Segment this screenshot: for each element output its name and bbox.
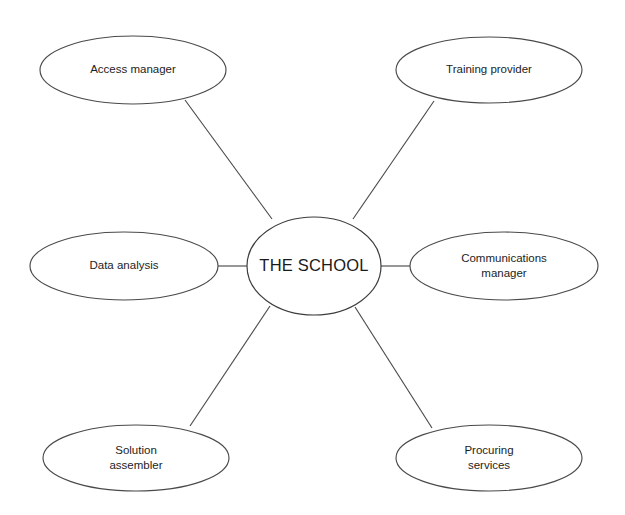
connector-access-manager — [185, 100, 272, 219]
connector-training-provider — [353, 101, 434, 219]
radial-diagram: Access manager Training provider Data an… — [0, 0, 625, 515]
node-label-data-analysis: Data analysis — [89, 259, 158, 271]
node-label-training-provider: Training provider — [446, 63, 532, 75]
node-data-analysis[interactable]: Data analysis — [30, 232, 218, 300]
node-training-provider[interactable]: Training provider — [396, 37, 582, 103]
node-communications-manager[interactable]: Communicationsmanager — [410, 232, 598, 300]
connector-solution-assembler — [190, 306, 270, 426]
node-procuring-services[interactable]: Procuringservices — [396, 425, 582, 491]
hub-node-the-school[interactable]: THE SCHOOL — [247, 217, 381, 315]
hub-label: THE SCHOOL — [259, 256, 368, 274]
node-access-manager[interactable]: Access manager — [40, 36, 226, 104]
node-solution-assembler[interactable]: Solutionassembler — [43, 425, 229, 491]
diagram-canvas: Access manager Training provider Data an… — [0, 0, 625, 515]
node-label-access-manager: Access manager — [90, 63, 176, 75]
connector-procuring-services — [355, 307, 432, 428]
